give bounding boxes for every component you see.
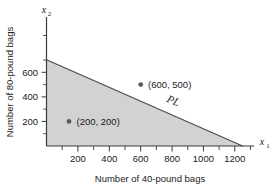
data-point-600-500 — [138, 82, 143, 87]
x-axis-variable-subscript: 1 — [266, 142, 270, 150]
x-tick-label-800: 800 — [164, 153, 180, 164]
x-tick-label-1000: 1000 — [193, 153, 214, 164]
x-tick-label-200: 200 — [70, 153, 86, 164]
y-axis-title: Number of 80-pound bags — [4, 27, 15, 138]
linear-programming-chart: 200 400 600 200 400 600 800 1000 1200 x … — [0, 0, 278, 189]
x-axis-title: Number of 40-pound bags — [95, 173, 206, 184]
y-axis-ticks-major — [42, 72, 47, 121]
y-tick-label-600: 600 — [22, 67, 38, 78]
y-axis-variable-subscript: 2 — [48, 10, 52, 18]
x-axis-variable-label: x — [259, 136, 265, 147]
y-tick-label-400: 400 — [22, 91, 38, 102]
data-point-200-200 — [67, 119, 72, 124]
x-tick-label-1200: 1200 — [224, 153, 245, 164]
x-tick-label-400: 400 — [101, 153, 117, 164]
data-point-label-600-500: (600, 500) — [148, 79, 191, 90]
y-axis-variable-label: x — [41, 4, 47, 15]
constraint-line-label-pl: PL — [164, 92, 181, 109]
x-tick-label-600: 600 — [133, 153, 149, 164]
x-axis-ticks-minor — [62, 146, 250, 150]
y-tick-label-200: 200 — [22, 116, 38, 127]
plot-area: 200 400 600 200 400 600 800 1000 1200 x … — [0, 0, 278, 189]
data-point-label-200-200: (200, 200) — [77, 116, 120, 127]
